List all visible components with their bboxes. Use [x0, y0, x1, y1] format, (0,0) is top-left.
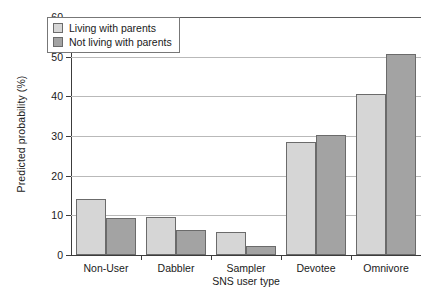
y-tick-label-0: 0	[57, 249, 63, 261]
gridline-0	[71, 255, 421, 256]
bar-omnivore-series-1	[386, 54, 416, 256]
legend-item-1: Not living with parents	[53, 35, 172, 49]
legend-swatch-icon-1	[53, 37, 63, 47]
bar-dabbler-series-0	[146, 217, 176, 255]
legend-item-0: Living with parents	[53, 21, 172, 35]
x-tick-3	[351, 255, 352, 260]
bar-non-user-series-0	[76, 199, 106, 255]
bar-devotee-series-1	[316, 135, 346, 255]
y-axis-title: Predicted probability (%)	[15, 49, 27, 219]
bar-sampler-series-1	[246, 246, 276, 255]
x-tick-label-omnivore: Omnivore	[341, 262, 429, 274]
bar-devotee-series-0	[286, 142, 316, 255]
bar-omnivore-series-0	[356, 94, 386, 255]
bar-chart-figure: Predicted probability (%) 0102030405060 …	[0, 0, 429, 300]
chart-legend: Living with parentsNot living with paren…	[47, 17, 180, 53]
y-tick-0	[66, 255, 71, 256]
legend-swatch-icon-0	[53, 23, 63, 33]
x-axis-title: SNS user type	[71, 275, 421, 287]
bar-non-user-series-1	[106, 218, 136, 255]
bar-group-omnivore	[356, 17, 416, 255]
x-tick-0	[141, 255, 142, 260]
y-tick-label-30: 30	[51, 130, 63, 142]
bar-group-sampler	[216, 17, 276, 255]
bar-sampler-series-0	[216, 232, 246, 255]
y-tick-label-20: 20	[51, 170, 63, 182]
bar-group-devotee	[286, 17, 346, 255]
legend-label-0: Living with parents	[69, 22, 156, 34]
x-tick-1	[211, 255, 212, 260]
y-tick-label-10: 10	[51, 209, 63, 221]
bar-dabbler-series-1	[176, 230, 206, 255]
y-tick-label-40: 40	[51, 90, 63, 102]
x-tick-2	[281, 255, 282, 260]
legend-label-1: Not living with parents	[69, 36, 172, 48]
